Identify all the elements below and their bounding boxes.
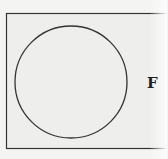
- venn-diagram: [0, 0, 167, 159]
- set-label: F: [147, 74, 158, 92]
- universal-set-rectangle: [7, 14, 168, 149]
